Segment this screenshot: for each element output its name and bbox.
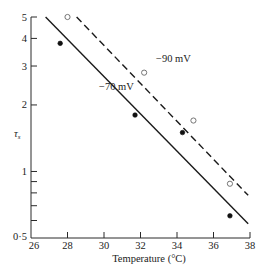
x-tick-label: 28: [62, 240, 73, 251]
y-tick-label: 0·5: [13, 231, 27, 242]
data-point-filled: [58, 41, 63, 46]
data-point-filled: [180, 130, 185, 135]
y-axis-title-sub: s: [18, 133, 21, 141]
y-tick-label: 5: [22, 12, 27, 23]
x-tick-label: 26: [29, 240, 40, 251]
y-tick-label: 4: [22, 33, 28, 44]
x-tick-label: 36: [208, 240, 219, 251]
data-point-filled: [228, 214, 233, 219]
fit-line-90mVmv: [77, 17, 249, 195]
data-point-open: [227, 181, 232, 186]
fit-lines: [46, 17, 249, 224]
x-tick-label: 32: [135, 240, 146, 251]
y-axis-title: τs: [14, 128, 21, 141]
x-tick-label: 30: [99, 240, 110, 251]
axis-ticks: 262830323436380·512345: [13, 12, 255, 252]
data-point-open: [191, 118, 196, 123]
x-axis-title: Temperature (°C): [112, 253, 186, 265]
data-point-open: [142, 70, 147, 75]
axes: [31, 17, 250, 238]
y-tick-label: 1: [22, 166, 27, 177]
x-tick-label: 38: [245, 240, 256, 251]
fit-line-70mVmv: [46, 17, 249, 224]
y-tick-label: 3: [22, 61, 27, 72]
y-tick-label: 2: [22, 99, 27, 110]
data-point-open: [65, 14, 70, 19]
x-tick-label: 34: [172, 240, 183, 251]
annotation-minus-90mv: −90 mV: [156, 53, 191, 64]
data-points: [58, 14, 233, 218]
chart-canvas: 262830323436380·512345 −90 mV −70 mV τs …: [0, 0, 269, 273]
annotation-minus-70mv: −70 mV: [99, 81, 134, 92]
data-point-filled: [133, 113, 138, 118]
